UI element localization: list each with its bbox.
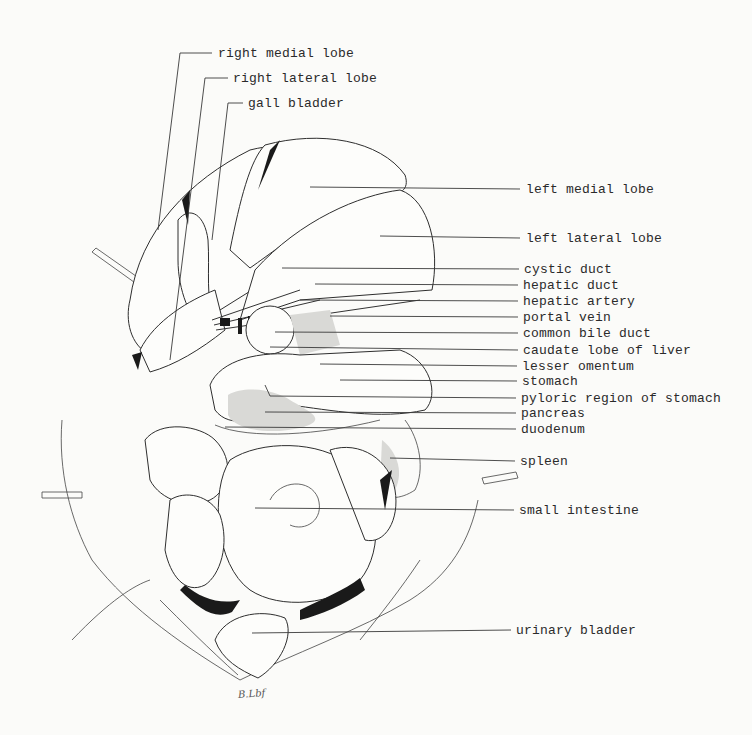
- label-right-medial-lobe: right medial lobe: [218, 47, 354, 61]
- label-common-bile-duct: common bile duct: [523, 327, 651, 341]
- anatomy-drawing: [0, 0, 752, 735]
- label-lesser-omentum: lesser omentum: [522, 360, 634, 374]
- label-gall-bladder: gall bladder: [248, 97, 344, 111]
- artist-signature: B.Lbf: [238, 687, 266, 700]
- label-left-medial-lobe: left medial lobe: [526, 183, 654, 197]
- label-right-lateral-lobe: right lateral lobe: [233, 72, 377, 86]
- urinary-bladder-shape: [215, 614, 288, 678]
- label-urinary-bladder: urinary bladder: [516, 624, 636, 638]
- label-left-lateral-lobe: left lateral lobe: [526, 232, 662, 246]
- label-pancreas: pancreas: [521, 407, 585, 421]
- label-pyloric-region: pyloric region of stomach: [521, 392, 721, 406]
- label-small-intestine: small intestine: [519, 504, 639, 518]
- label-hepatic-duct: hepatic duct: [523, 279, 619, 293]
- label-hepatic-artery: hepatic artery: [523, 295, 635, 309]
- label-caudate-lobe: caudate lobe of liver: [523, 344, 691, 358]
- label-cystic-duct: cystic duct: [524, 263, 612, 277]
- label-portal-vein: portal vein: [523, 311, 611, 325]
- label-stomach: stomach: [522, 375, 578, 389]
- anatomy-diagram: right medial lobe right lateral lobe gal…: [0, 0, 752, 735]
- label-spleen: spleen: [520, 455, 568, 469]
- label-duodenum: duodenum: [521, 423, 585, 437]
